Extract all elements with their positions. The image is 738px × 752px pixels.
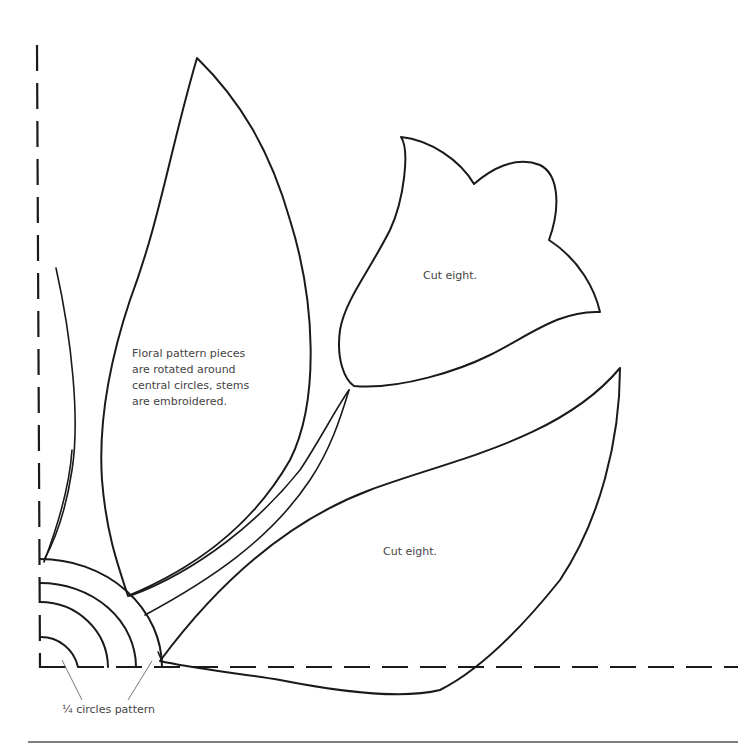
leaf-cut-label: Cut eight.: [383, 544, 437, 560]
tulip-flower: [339, 137, 600, 387]
left-fold-line: [37, 45, 40, 668]
pattern-diagram: [0, 0, 738, 752]
quarter-circles: [40, 559, 162, 667]
stem-upper: [130, 390, 349, 596]
wide-leaf: [160, 368, 620, 694]
quarter-circles-label: ¼ circles pattern: [62, 702, 155, 718]
tall-leaf-left-edge: [44, 450, 72, 562]
tulip-cut-label: Cut eight.: [423, 268, 477, 284]
stem-lower: [145, 390, 349, 615]
tall-leaf: [101, 58, 310, 596]
note-label: Floral pattern pieces are rotated around…: [132, 346, 249, 410]
